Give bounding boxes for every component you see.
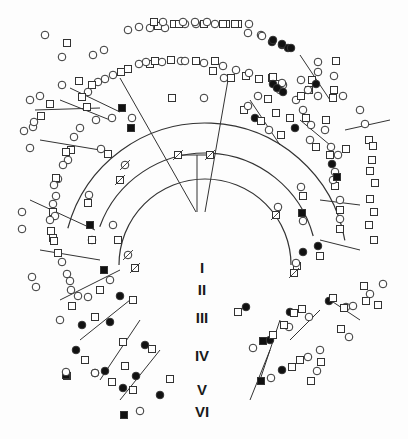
male-icon — [152, 58, 159, 65]
female-icon — [299, 106, 307, 114]
male-icon — [330, 295, 337, 302]
generation-label-1: I — [182, 259, 222, 276]
female-icon — [109, 71, 117, 79]
male-icon — [120, 339, 127, 346]
affected-female-icon — [291, 124, 299, 132]
male-icon — [273, 110, 280, 117]
affected-female-icon — [279, 88, 287, 96]
male-icon — [318, 359, 325, 366]
male-icon — [281, 322, 288, 329]
affected-female-icon — [72, 346, 80, 354]
female-icon — [135, 23, 143, 31]
female-icon — [63, 270, 71, 278]
male-icon — [228, 75, 235, 82]
affected-male-icon — [87, 222, 94, 229]
female-icon — [345, 333, 353, 341]
female-icon — [66, 277, 74, 285]
affected-female-icon — [156, 391, 164, 399]
female-icon — [135, 60, 143, 68]
female-icon — [41, 31, 49, 39]
affected-male-icon — [119, 105, 126, 112]
male-icon — [109, 379, 116, 386]
affected-male-icon — [260, 338, 267, 345]
female-icon — [304, 86, 312, 94]
female-icon — [211, 20, 219, 28]
male-icon — [308, 378, 315, 385]
male-icon — [299, 306, 306, 313]
male-icon — [366, 222, 373, 229]
descent-line — [250, 350, 270, 400]
male-icon — [372, 180, 379, 187]
female-icon — [244, 29, 252, 37]
female-icon — [26, 96, 34, 104]
female-icon — [314, 92, 322, 100]
female-icon — [304, 353, 312, 361]
male-icon — [371, 237, 378, 244]
male-icon — [69, 303, 76, 310]
male-icon — [303, 115, 310, 122]
male-icon — [64, 40, 71, 47]
descent-line — [80, 300, 130, 340]
male-icon — [287, 115, 294, 122]
female-icon — [313, 367, 321, 375]
male-icon — [317, 253, 324, 260]
female-icon — [314, 58, 322, 66]
male-icon — [333, 58, 340, 65]
female-icon — [203, 18, 211, 26]
pedigree-figure: I II III IV V VI — [0, 0, 408, 439]
female-icon — [356, 106, 364, 114]
male-icon — [330, 95, 337, 102]
female-icon — [181, 57, 189, 65]
female-icon — [244, 102, 252, 110]
affected-female-icon — [132, 372, 140, 380]
female-icon — [307, 121, 315, 129]
female-icon — [292, 259, 300, 267]
female-icon — [219, 62, 227, 70]
female-icon — [30, 118, 38, 126]
female-icon — [336, 215, 344, 223]
male-icon — [270, 332, 277, 339]
descent-line — [320, 240, 360, 250]
female-icon — [70, 133, 78, 141]
female-icon — [316, 346, 324, 354]
affected-male-icon — [101, 267, 108, 274]
male-icon — [89, 237, 96, 244]
female-icon — [220, 74, 228, 82]
pedigree-chart — [0, 0, 408, 439]
male-icon — [337, 226, 344, 233]
female-icon — [200, 59, 208, 67]
male-icon — [55, 250, 62, 257]
female-icon — [92, 116, 100, 124]
affected-female-icon — [287, 44, 295, 52]
female-icon — [265, 126, 273, 134]
female-icon — [314, 68, 322, 76]
male-icon — [367, 196, 374, 203]
male-icon — [270, 74, 277, 81]
affected-female-icon — [141, 341, 149, 349]
male-icon — [115, 237, 122, 244]
female-icon — [191, 18, 199, 26]
male-icon — [82, 357, 89, 364]
male-icon — [289, 364, 296, 371]
female-icon — [299, 217, 307, 225]
male-icon — [85, 200, 92, 207]
female-icon — [62, 368, 70, 376]
female-icon — [128, 114, 136, 122]
descent-line — [205, 80, 228, 212]
male-icon — [48, 228, 55, 235]
female-icon — [327, 143, 335, 151]
female-icon — [109, 221, 117, 229]
affected-female-icon — [101, 367, 109, 375]
affected-female-icon — [328, 160, 336, 168]
male-icon — [151, 19, 158, 26]
male-icon — [149, 346, 156, 353]
generation-label-3: III — [182, 309, 222, 326]
generation-arc — [119, 179, 291, 265]
female-icon — [67, 286, 75, 294]
male-icon — [258, 118, 265, 125]
affected-male-icon — [121, 412, 128, 419]
female-icon — [20, 127, 28, 135]
male-icon — [118, 69, 125, 76]
female-icon — [49, 200, 57, 208]
male-icon — [79, 94, 86, 101]
